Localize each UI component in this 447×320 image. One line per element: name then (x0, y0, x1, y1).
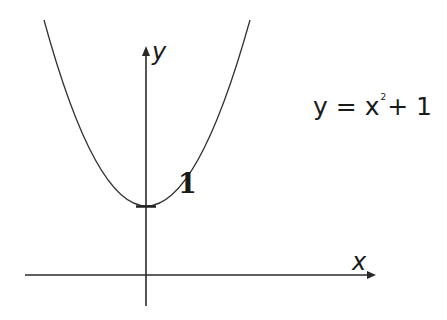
parabola-curve (44, 20, 250, 206)
equation-equals: = (336, 92, 357, 121)
equation-lhs: y (313, 92, 328, 121)
y-axis (142, 46, 150, 306)
equation-label: y = x2+ 1 (313, 94, 432, 119)
x-axis-label: x (352, 250, 366, 274)
x-axis (25, 271, 376, 279)
y-axis-arrow-icon (142, 46, 150, 56)
y-axis-label: y (152, 40, 166, 64)
x-axis-arrow-icon (367, 271, 376, 279)
graph-canvas: y x 1 y = x2+ 1 (0, 0, 447, 320)
graph-svg (0, 0, 447, 320)
vertex-value-label: 1 (178, 170, 197, 197)
equation-constant: 1 (416, 92, 432, 121)
equation-plus: + (387, 92, 408, 121)
equation-base: x (365, 92, 380, 121)
equation-exponent: 2 (380, 92, 386, 102)
